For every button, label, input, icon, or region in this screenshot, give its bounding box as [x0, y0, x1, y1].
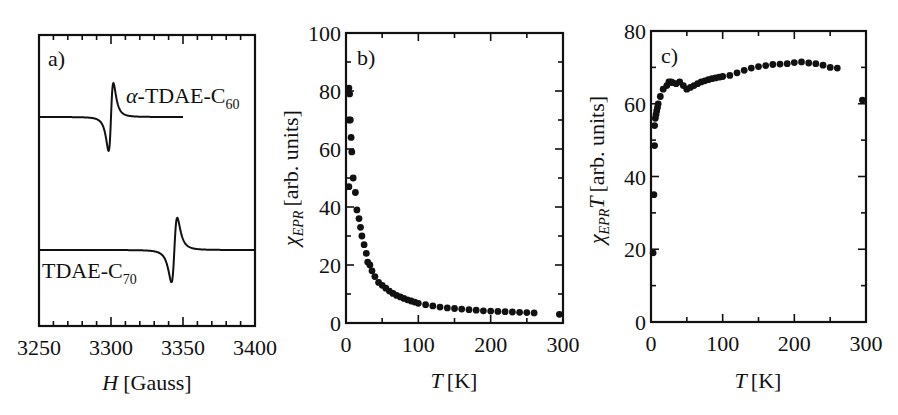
panel-a-epr-spectra: a) α-TDAE-C60 TDAE-C70 3250330033503400 … — [17, 35, 277, 395]
panel-c-frame — [651, 31, 866, 322]
c70-label-main: TDAE-C — [42, 258, 123, 283]
data-point — [369, 267, 376, 274]
data-point — [451, 305, 458, 312]
panel-b-data-points — [346, 85, 563, 318]
y-tick-label: 60 — [624, 92, 646, 117]
x-tick-label: 3300 — [89, 335, 133, 360]
data-point — [357, 224, 364, 231]
data-point — [347, 117, 354, 124]
panel-b-y-axis-title: χEPR[arb. units] — [278, 110, 306, 248]
figure-canvas: a) α-TDAE-C60 TDAE-C70 3250330033503400 … — [0, 0, 898, 415]
data-point — [741, 67, 748, 74]
data-point — [509, 309, 516, 316]
data-point — [655, 100, 662, 107]
data-point — [812, 60, 819, 67]
data-point — [777, 61, 784, 68]
panel-c-x-tick-labels: 0100200300 — [646, 331, 883, 356]
panel-c-x-axis-title: T[K] — [735, 368, 782, 393]
data-point — [834, 65, 841, 72]
data-point — [415, 300, 422, 307]
data-point — [422, 301, 429, 308]
data-point — [356, 215, 363, 222]
panel-c-ticks — [651, 31, 866, 322]
x-tick-label: 300 — [850, 331, 883, 356]
data-point — [769, 61, 776, 68]
y-tick-label: 20 — [624, 237, 646, 262]
x-tick-label: 3250 — [17, 335, 61, 360]
data-point — [352, 189, 359, 196]
y-tick-label: 80 — [624, 19, 646, 44]
y-tick-label: 60 — [319, 137, 341, 162]
x-tick-label: 200 — [474, 332, 507, 357]
data-point — [820, 62, 827, 69]
data-point — [859, 97, 866, 104]
data-point — [495, 308, 502, 315]
panel-c-data-points — [650, 59, 866, 257]
c70-series-label: TDAE-C70 — [42, 258, 137, 287]
data-point — [798, 59, 805, 66]
data-point — [354, 207, 361, 214]
data-point — [363, 250, 370, 257]
x-tick-label: 3400 — [233, 335, 277, 360]
x-tick-label: 3350 — [161, 335, 205, 360]
y-tick-label: 100 — [308, 21, 341, 46]
c60-label-sub: 60 — [226, 97, 240, 112]
data-point — [502, 308, 509, 315]
y-tick-label: 0 — [330, 311, 341, 336]
panel-c-chi-epr-t: c) 0100200300 020406080 T[K] χEPRT[arb. … — [584, 19, 883, 393]
data-point — [657, 93, 664, 100]
panel-c-y-axis-title: χEPRT[arb. units] — [584, 96, 612, 246]
data-point — [651, 122, 658, 129]
data-point — [755, 63, 762, 70]
data-point — [444, 305, 451, 312]
panel-a-x-tick-labels: 3250330033503400 — [17, 335, 277, 360]
panel-c-label: c) — [661, 43, 678, 68]
data-point — [437, 304, 444, 311]
data-point — [719, 73, 726, 80]
x-tick-label: 0 — [646, 331, 657, 356]
x-tick-label: 100 — [402, 332, 435, 357]
data-point — [480, 307, 487, 314]
data-point — [726, 72, 733, 79]
data-point — [784, 60, 791, 67]
data-point — [651, 142, 658, 149]
c60-series-label: α-TDAE-C60 — [126, 83, 240, 112]
c60-label-main: -TDAE-C — [138, 83, 226, 108]
panel-b-x-tick-labels: 0100200300 — [341, 332, 580, 357]
panel-b-x-axis-title: T[K] — [431, 368, 478, 393]
data-point — [367, 262, 374, 269]
y-tick-label: 20 — [319, 253, 341, 278]
panel-a-label: a) — [48, 46, 65, 71]
data-point — [531, 310, 538, 317]
data-point — [348, 134, 355, 141]
x-tick-label: 200 — [778, 331, 811, 356]
data-point — [734, 69, 741, 76]
panel-c-y-tick-labels: 020406080 — [624, 19, 646, 335]
c70-label-sub: 70 — [123, 272, 137, 287]
data-point — [361, 241, 368, 248]
y-tick-label: 40 — [319, 195, 341, 220]
panel-b-chi-epr: b) 0100200300 020406080100 T[K] χEPR[arb… — [278, 21, 580, 393]
panel-a-x-axis-title: H[Gauss] — [101, 370, 191, 395]
data-point — [762, 62, 769, 69]
y-tick-label: 0 — [635, 310, 646, 335]
x-tick-label: 300 — [547, 332, 580, 357]
data-point — [458, 306, 465, 313]
x-tick-label: 100 — [706, 331, 739, 356]
data-point — [359, 233, 366, 240]
data-point — [466, 306, 473, 313]
data-point — [556, 311, 563, 318]
data-point — [516, 309, 523, 316]
data-point — [372, 273, 379, 280]
data-point — [805, 60, 812, 67]
data-point — [350, 175, 357, 182]
data-point — [487, 308, 494, 315]
data-point — [827, 64, 834, 71]
data-point — [429, 303, 436, 310]
data-point — [523, 309, 530, 316]
data-point — [346, 91, 353, 98]
data-point — [791, 59, 798, 66]
y-tick-label: 80 — [319, 79, 341, 104]
x-tick-label: 0 — [341, 332, 352, 357]
y-tick-label: 40 — [624, 165, 646, 190]
